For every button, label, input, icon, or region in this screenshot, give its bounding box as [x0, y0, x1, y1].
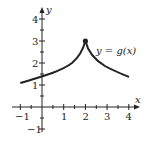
- x-tick-label-3: 3: [104, 111, 110, 122]
- x-axis-label: x: [135, 94, 141, 105]
- x-tick-label-4: 4: [126, 111, 132, 122]
- x-tick-label-neg1: −1: [15, 111, 30, 122]
- peak-point: [83, 38, 88, 43]
- curve-left-branch: [20, 41, 85, 83]
- x-axis-arrow-icon: [134, 105, 140, 110]
- x-tick-label-1: 1: [61, 111, 67, 122]
- y-tick-label-3: 3: [32, 36, 38, 47]
- y-tick-label-neg1: −1: [27, 124, 42, 135]
- y-tick-label-4: 4: [32, 14, 38, 25]
- y-tick-label-1: 1: [32, 80, 38, 91]
- y-tick-label-2: 2: [32, 58, 38, 69]
- x-tick-label-2: 2: [83, 111, 89, 122]
- y-axis-arrow-icon: [40, 7, 45, 13]
- graph: −1 1 2 3 4 −1 1 2 3 4 x y y = g(x): [0, 0, 148, 143]
- y-axis-label: y: [45, 4, 52, 15]
- curve-label: y = g(x): [95, 45, 136, 56]
